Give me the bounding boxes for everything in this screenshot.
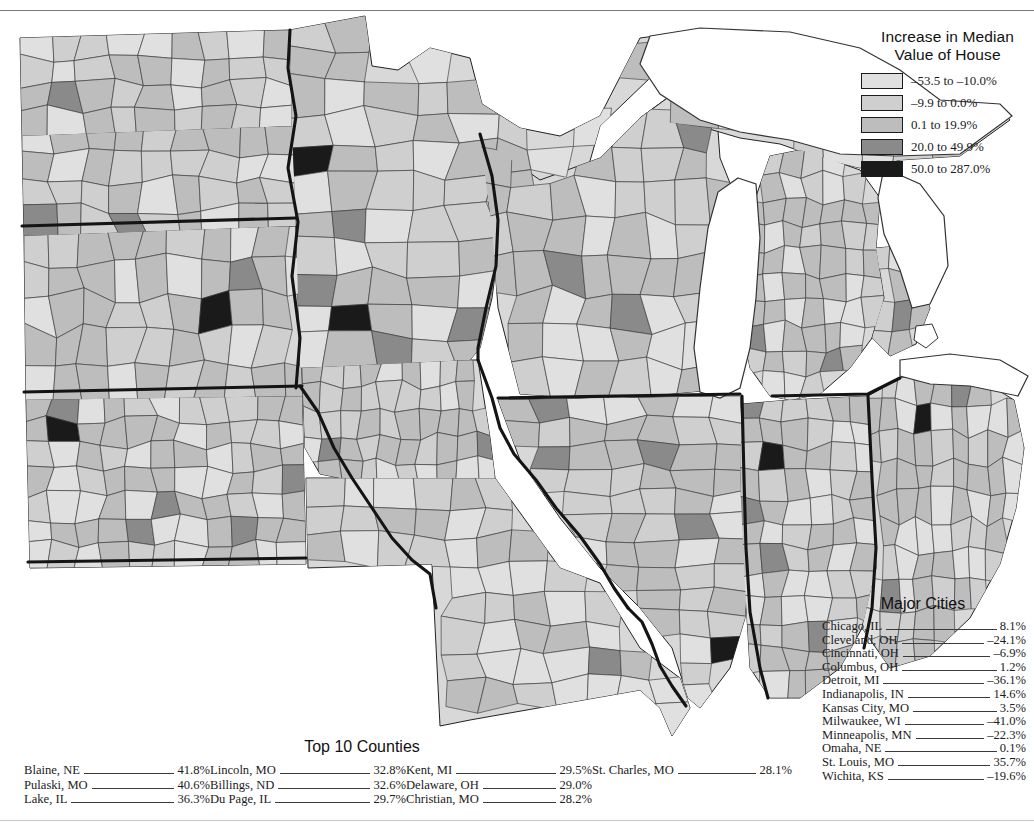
county-polygon[interactable] [109, 182, 143, 213]
county-polygon[interactable] [225, 396, 258, 422]
county-polygon[interactable] [108, 363, 138, 400]
county-polygon[interactable] [229, 57, 266, 80]
county-polygon[interactable] [24, 262, 49, 299]
county-polygon[interactable] [138, 55, 172, 85]
county-polygon[interactable] [634, 540, 679, 568]
county-polygon[interactable] [75, 519, 99, 548]
county-polygon[interactable] [932, 551, 955, 579]
county-polygon[interactable] [26, 521, 52, 542]
county-polygon[interactable] [863, 223, 884, 250]
county-polygon[interactable] [612, 147, 644, 182]
county-polygon[interactable] [606, 542, 639, 567]
county-polygon[interactable] [680, 634, 711, 664]
county-polygon[interactable] [781, 396, 808, 422]
county-polygon[interactable] [916, 466, 933, 489]
county-polygon[interactable] [485, 592, 515, 623]
county-polygon[interactable] [282, 491, 306, 522]
county-polygon[interactable] [763, 352, 784, 373]
county-polygon[interactable] [207, 516, 232, 547]
county-polygon[interactable] [842, 221, 867, 250]
county-polygon[interactable] [46, 490, 80, 523]
county-polygon[interactable] [640, 488, 676, 514]
county-polygon[interactable] [953, 547, 970, 579]
county-polygon[interactable] [760, 625, 782, 648]
county-polygon[interactable] [173, 175, 201, 215]
county-polygon[interactable] [227, 30, 265, 59]
county-polygon[interactable] [888, 330, 914, 357]
county-polygon[interactable] [76, 364, 110, 400]
county-polygon[interactable] [968, 547, 985, 581]
county-polygon[interactable] [802, 298, 825, 328]
county-polygon[interactable] [679, 610, 710, 638]
county-polygon[interactable] [509, 530, 548, 562]
county-polygon[interactable] [328, 145, 378, 171]
county-polygon[interactable] [914, 403, 931, 434]
county-polygon[interactable] [306, 506, 344, 535]
county-polygon[interactable] [420, 360, 440, 390]
county-polygon[interactable] [229, 289, 263, 325]
county-polygon[interactable] [637, 590, 681, 610]
legend-row[interactable]: –53.5 to –10.0% [861, 72, 1034, 90]
county-polygon[interactable] [931, 486, 954, 525]
county-polygon[interactable] [637, 567, 681, 590]
county-polygon[interactable] [675, 564, 714, 590]
county-polygon[interactable] [365, 209, 413, 243]
legend-row[interactable]: 0.1 to 19.9% [861, 116, 1034, 134]
county-polygon[interactable] [456, 360, 475, 382]
county-polygon[interactable] [675, 538, 719, 568]
county-polygon[interactable] [764, 320, 786, 352]
county-polygon[interactable] [98, 519, 128, 543]
county-polygon[interactable] [341, 387, 362, 412]
county-polygon[interactable] [151, 440, 175, 468]
county-polygon[interactable] [985, 549, 1009, 582]
county-polygon[interactable] [620, 651, 652, 681]
county-polygon[interactable] [128, 541, 154, 568]
county-polygon[interactable] [306, 531, 345, 561]
county-polygon[interactable] [788, 671, 806, 699]
county-polygon[interactable] [251, 363, 286, 400]
county-polygon[interactable] [587, 674, 621, 704]
county-polygon[interactable] [413, 478, 453, 511]
county-polygon[interactable] [931, 403, 953, 431]
county-polygon[interactable] [854, 518, 876, 545]
county-polygon[interactable] [509, 561, 547, 596]
county-polygon[interactable] [202, 494, 231, 519]
county-polygon[interactable] [171, 85, 203, 110]
county-polygon[interactable] [437, 432, 458, 465]
county-polygon[interactable] [407, 276, 460, 308]
county-polygon[interactable] [914, 431, 933, 467]
county-polygon[interactable] [171, 58, 205, 88]
county-polygon[interactable] [582, 255, 613, 299]
county-polygon[interactable] [782, 622, 809, 652]
county-polygon[interactable] [407, 242, 460, 279]
county-polygon[interactable] [810, 495, 833, 525]
county-polygon[interactable] [800, 224, 822, 248]
county-polygon[interactable] [932, 525, 953, 553]
county-polygon[interactable] [820, 245, 847, 279]
county-polygon[interactable] [374, 478, 417, 509]
legend-row[interactable]: 20.0 to 49.9% [861, 138, 1034, 156]
county-polygon[interactable] [806, 469, 832, 499]
county-polygon[interactable] [861, 276, 884, 298]
county-polygon[interactable] [588, 647, 621, 676]
county-polygon[interactable] [763, 273, 785, 302]
county-polygon[interactable] [846, 248, 864, 275]
county-polygon[interactable] [135, 363, 170, 400]
county-polygon[interactable] [240, 126, 269, 158]
county-polygon[interactable] [109, 150, 143, 186]
legend-row[interactable]: 50.0 to 287.0% [861, 160, 1034, 178]
county-polygon[interactable] [48, 441, 80, 467]
county-polygon[interactable] [830, 442, 857, 472]
county-polygon[interactable] [615, 182, 646, 218]
county-polygon[interactable] [782, 273, 806, 300]
county-polygon[interactable] [710, 636, 748, 664]
county-polygon[interactable] [24, 366, 55, 400]
county-polygon[interactable] [282, 465, 306, 495]
county-polygon[interactable] [437, 409, 459, 437]
county-polygon[interactable] [675, 178, 711, 225]
county-polygon[interactable] [879, 429, 898, 463]
county-polygon[interactable] [758, 442, 784, 471]
county-polygon[interactable] [22, 204, 58, 236]
county-polygon[interactable] [759, 418, 783, 445]
county-polygon[interactable] [202, 226, 231, 262]
